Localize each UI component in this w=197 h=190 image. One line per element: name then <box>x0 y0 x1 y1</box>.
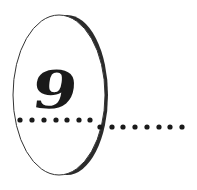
chapter-number: 9 <box>25 62 85 118</box>
dotted-line-right <box>97 124 184 129</box>
